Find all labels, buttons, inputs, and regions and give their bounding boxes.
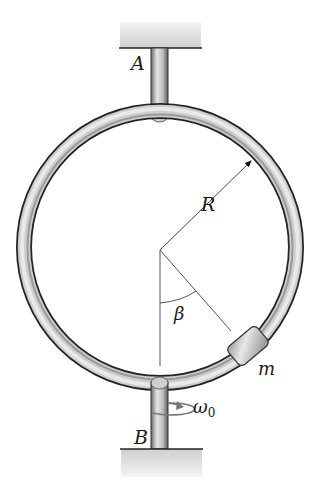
ring-diagram: A B R β m ω0 [0,0,325,488]
label-beta: β [173,303,184,324]
geometry-lines [160,161,251,366]
label-a: A [129,52,145,74]
label-m: m [258,358,275,379]
label-omega: ω0 [193,396,215,420]
label-b: B [133,426,148,448]
bottom-support [120,449,203,477]
top-support [119,22,202,48]
omega-subscript: 0 [208,406,216,420]
omega-symbol: ω [193,396,208,417]
label-r: R [200,193,215,215]
